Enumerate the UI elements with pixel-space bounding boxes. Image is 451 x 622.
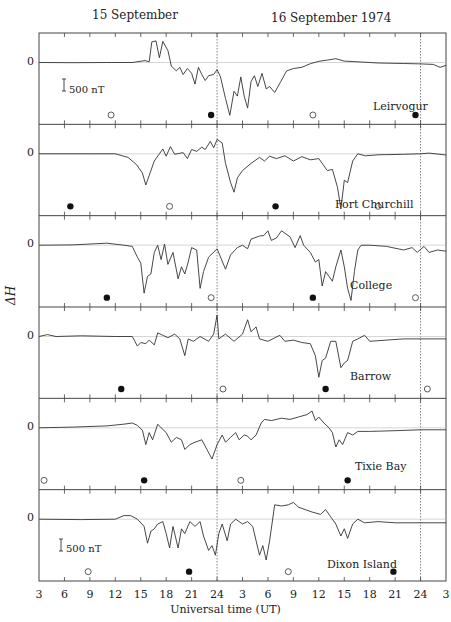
local-midnight-marker [322, 386, 328, 392]
local-noon-marker [424, 386, 430, 392]
x-tick-label: 9 [86, 588, 93, 601]
station-label: Dixon Island [327, 558, 397, 571]
zero-label: 0 [27, 420, 34, 433]
zero-label: 0 [27, 55, 34, 68]
x-tick-label: 3 [36, 588, 43, 601]
local-midnight-marker [104, 294, 110, 300]
x-tick-label: 15 [134, 588, 148, 601]
local-midnight-marker [118, 386, 124, 392]
station-label: Tixie Bay [355, 460, 406, 473]
x-tick-label: 3 [239, 588, 246, 601]
local-midnight-marker [208, 112, 214, 118]
local-midnight-marker [186, 568, 192, 574]
scale-bar-label: 500 nT [69, 84, 104, 95]
x-tick-label: 24 [414, 588, 428, 601]
local-noon-marker [285, 569, 291, 575]
date-label-left: 15 September [92, 8, 178, 22]
trace-barrow [39, 315, 446, 377]
local-noon-marker [167, 203, 173, 209]
local-noon-marker [108, 112, 114, 118]
local-noon-marker [85, 569, 91, 575]
local-noon-marker [220, 386, 226, 392]
x-tick-label: 6 [61, 588, 68, 601]
local-noon-marker [41, 477, 47, 483]
scale-bar-bottom: 500 nT [66, 543, 101, 554]
zero-label: 0 [27, 511, 34, 524]
zero-label: 0 [27, 329, 34, 342]
local-noon-marker [238, 477, 244, 483]
station-label: College [350, 279, 392, 292]
x-tick-label: 18 [363, 588, 377, 601]
x-tick-label: 15 [337, 588, 351, 601]
local-midnight-marker [67, 203, 73, 209]
x-tick-label: 12 [108, 588, 122, 601]
x-tick-label: 6 [264, 588, 271, 601]
zero-label: 0 [27, 146, 34, 159]
scale-bar-label: 500 nT [66, 543, 101, 554]
zero-label: 0 [27, 237, 34, 250]
local-midnight-marker [141, 477, 147, 483]
local-midnight-marker [344, 477, 350, 483]
x-axis-label: Universal time (UT) [0, 603, 451, 616]
x-tick-label: 18 [159, 588, 173, 601]
local-midnight-marker [272, 203, 278, 209]
x-tick-label: 3 [443, 588, 450, 601]
local-noon-marker [208, 295, 214, 301]
date-label-right: 16 September 1974 [271, 11, 391, 25]
y-axis-label: ΔH [4, 286, 18, 305]
local-noon-marker [412, 295, 418, 301]
x-tick-label: 12 [312, 588, 326, 601]
local-midnight-marker [310, 294, 316, 300]
x-tick-label: 9 [290, 588, 297, 601]
x-tick-label: 21 [388, 588, 402, 601]
x-tick-label: 21 [185, 588, 199, 601]
trace-tixie-bay [39, 411, 446, 459]
station-label: Barrow [350, 370, 391, 383]
magnetogram-figure [0, 0, 451, 622]
local-noon-marker [310, 112, 316, 118]
station-label: Fort Churchill [335, 198, 413, 211]
x-tick-label: 24 [210, 588, 224, 601]
station-label: Leirvogur [373, 100, 428, 113]
scale-bar-top: 500 nT [69, 84, 104, 95]
